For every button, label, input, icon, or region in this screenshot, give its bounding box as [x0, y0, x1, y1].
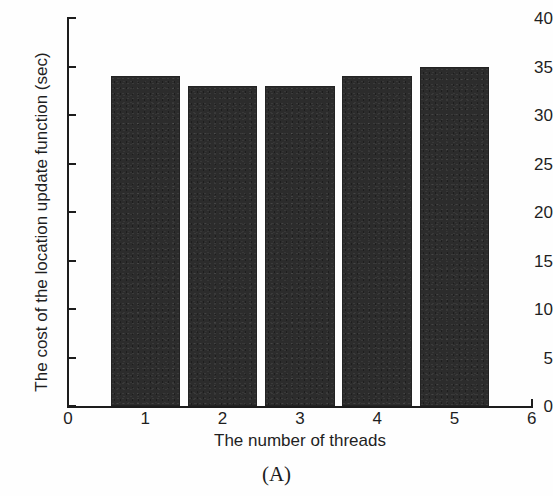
x-tick-label: 1	[125, 410, 165, 427]
y-tick-mark	[69, 308, 76, 310]
y-tick-mark	[69, 66, 76, 68]
y-tick-mark	[69, 357, 76, 359]
y-tick-mark	[69, 114, 76, 116]
x-tick-label: 4	[357, 410, 397, 427]
y-tick-label: 5	[509, 349, 553, 366]
bar	[265, 86, 335, 406]
y-tick-label: 40	[509, 10, 553, 27]
x-tick-label: 5	[435, 410, 475, 427]
y-tick-label: 20	[509, 204, 553, 221]
bar	[111, 76, 181, 406]
x-tick-label: 0	[48, 410, 88, 427]
bar	[188, 86, 258, 406]
y-tick-label: 35	[509, 58, 553, 75]
y-tick-label: 25	[509, 155, 553, 172]
y-tick-label: 30	[509, 107, 553, 124]
x-tick-label: 3	[280, 410, 320, 427]
y-tick-mark	[69, 405, 76, 407]
figure-panel-a: 0510152025303540 0123456 The cost of the…	[0, 0, 553, 496]
bar	[420, 67, 490, 407]
y-tick-mark	[69, 17, 76, 19]
x-tick-label: 6	[512, 410, 552, 427]
x-axis-label: The number of threads	[67, 431, 533, 451]
y-tick-mark	[69, 163, 76, 165]
x-tick-mark	[531, 399, 533, 407]
y-tick-label: 15	[509, 252, 553, 269]
y-tick-label: 10	[509, 301, 553, 318]
bar-chart-plot: 0510152025303540 0123456 The cost of the…	[0, 0, 553, 440]
bar	[342, 76, 412, 406]
y-axis-label: The cost of the location update function…	[32, 12, 52, 432]
y-tick-mark	[69, 211, 76, 213]
figure-caption: (A)	[0, 462, 553, 487]
x-tick-label: 2	[203, 410, 243, 427]
y-tick-mark	[69, 260, 76, 262]
